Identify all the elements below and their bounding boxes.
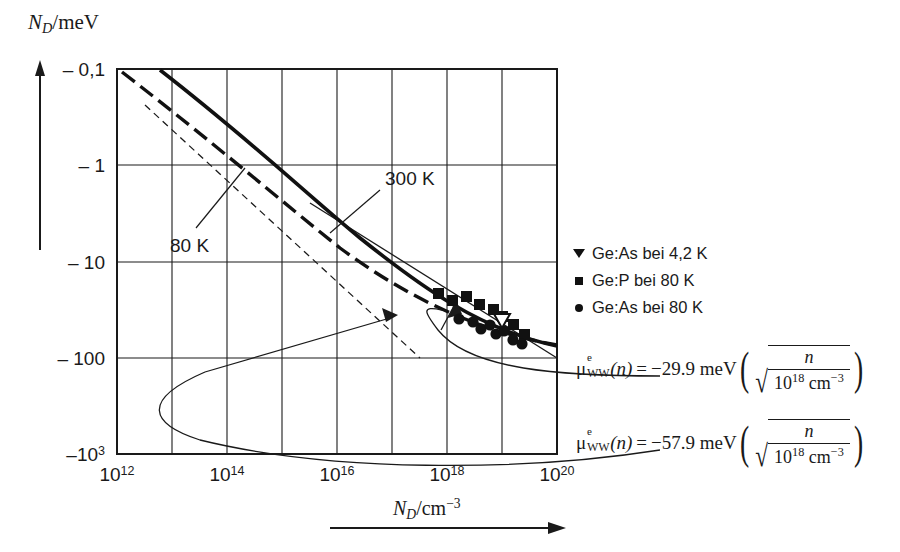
y-tick-label-last: –103 [25,444,105,466]
fraction: n 1018 cm−3 [768,345,850,394]
paren-open: ( [740,425,749,462]
curve-label-80k: 80 K [170,235,209,257]
formula-argument: (n) [610,358,632,380]
paren-close: ) [854,425,863,462]
sqrt-group: √ n 1018 cm−3 [753,419,850,468]
figure-root: ND/meV [0,0,900,552]
mu-glyph: μ [576,432,586,453]
x-tick-exponent: 16 [341,464,355,478]
den-base: 10 [774,447,792,467]
x-axis-arrow [330,522,566,534]
x-tick-exponent: 20 [561,464,575,478]
curve-label-300k: 300 K [385,168,435,190]
x-tick-base: 10 [539,464,560,485]
den-unit-exponent: −3 [831,445,844,459]
x-tick-base: 10 [209,464,230,485]
radical-icon: √ [755,440,768,471]
mu-superscript: e [587,425,592,437]
x-tick-label: 1014 [192,464,262,486]
mu-superscript: e [587,351,592,363]
sqrt-group: √ n 1018 cm−3 [753,345,850,394]
legend-item-label: Ge:As bei 80 K [590,298,703,317]
legend-item: Ge:As bei 80 K [568,294,708,321]
square-marker-icon [568,277,590,285]
paren-open: ( [740,351,749,388]
y-tick-last-base: –10 [66,444,98,465]
markers-ge-as-80k [453,313,527,349]
fraction-denominator: 1018 cm−3 [768,444,850,468]
mu-glyph: μ [576,358,586,379]
legend-item: Ge:As bei 4,2 K [568,240,708,267]
y-tick-label: – 10 [25,252,105,274]
formula-coefficient: −29.9 meV [651,358,737,380]
formula-coefficient: −57.9 meV [651,432,737,454]
x-axis-caption: ND/cm−3 [393,496,461,523]
formula-argument: (n) [610,432,632,454]
x-tick-base: 10 [319,464,340,485]
x-tick-exponent: 14 [231,464,245,478]
den-unit: cm [809,373,831,393]
x-tick-base: 10 [99,464,120,485]
mu-subscript: WW [587,366,610,381]
formula-29-9: μeWW (n) = −29.9 meV ( √ n 1018 cm−3 ) [576,345,866,394]
y-tick-last-exponent: 3 [98,444,105,458]
den-unit-exponent: −3 [831,371,844,385]
fraction: n 1018 cm−3 [768,419,850,468]
legend-item-label: Ge:P bei 80 K [590,271,694,290]
formula-equals: = [632,432,651,454]
x-tick-label: 1016 [302,464,372,486]
formula-57-9: μeWW (n) = −57.9 meV ( √ n 1018 cm−3 ) [576,419,866,468]
legend-item-label: Ge:As bei 4,2 K [590,244,708,263]
y-tick-label: – 100 [25,348,105,370]
den-exponent: 18 [792,445,804,459]
triangle-down-icon [568,249,590,258]
radical-icon: √ [755,366,768,397]
paren-close: ) [854,351,863,388]
fraction-denominator: 1018 cm−3 [768,370,850,394]
y-tick-label: – 0,1 [25,59,105,81]
legend: Ge:As bei 4,2 K Ge:P bei 80 K Ge:As bei … [568,240,708,321]
den-unit: cm [809,447,831,467]
den-exponent: 18 [792,371,804,385]
den-base: 10 [774,373,792,393]
mu-symbol: μeWW [576,432,586,454]
mu-subscript: WW [587,440,610,455]
circle-marker-icon [568,304,590,312]
leader-80K [196,168,245,228]
y-tick-label: – 1 [25,155,105,177]
x-tick-exponent: 12 [121,464,135,478]
fraction-numerator: n [768,420,850,444]
fraction-numerator: n [768,346,850,370]
x-tick-base: 10 [429,464,450,485]
formula-equals: = [632,358,651,380]
x-tick-label: 1018 [412,464,482,486]
x-tick-exponent: 18 [451,464,465,478]
legend-item: Ge:P bei 80 K [568,267,708,294]
x-tick-label: 1012 [82,464,152,486]
mu-symbol: μeWW [576,358,586,380]
